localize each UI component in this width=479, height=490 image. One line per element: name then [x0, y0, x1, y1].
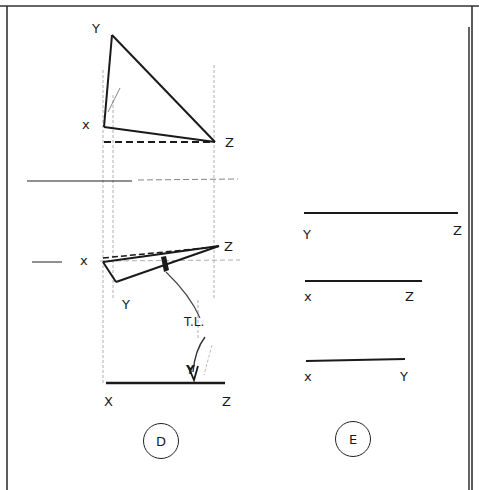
label-e1-start: Y [303, 228, 311, 241]
construction-diagonal [204, 345, 212, 375]
label-top-x: x [82, 118, 90, 131]
label-base-x: X [104, 395, 113, 408]
top-view-triangle [104, 35, 215, 142]
view-e-line-xy [306, 359, 405, 361]
label-e2-end: Z [405, 290, 414, 303]
label-tl-y: Y [186, 364, 195, 376]
label-base-z: Z [222, 395, 231, 408]
view-label-e: E [335, 421, 371, 457]
view-label-d-text: D [156, 434, 166, 449]
label-e3-end: Y [400, 370, 408, 383]
front-view-triangle [103, 246, 219, 282]
label-e1-end: Z [453, 224, 462, 237]
label-front-z: Z [224, 240, 233, 253]
label-e2-start: x [304, 290, 312, 303]
label-true-length: T.L. [184, 316, 204, 328]
fold-line-dashed [138, 179, 238, 180]
label-e3-start: x [304, 370, 312, 383]
label-front-x: x [80, 254, 88, 267]
drawing-canvas [0, 0, 479, 490]
label-top-z: Z [225, 136, 234, 149]
view-label-d: D [143, 423, 179, 459]
rotation-arc-upper [166, 272, 200, 318]
view-label-e-text: E [349, 432, 357, 447]
label-top-y: Y [92, 22, 100, 35]
label-front-y: Y [122, 298, 130, 311]
construction-lines [103, 65, 214, 385]
